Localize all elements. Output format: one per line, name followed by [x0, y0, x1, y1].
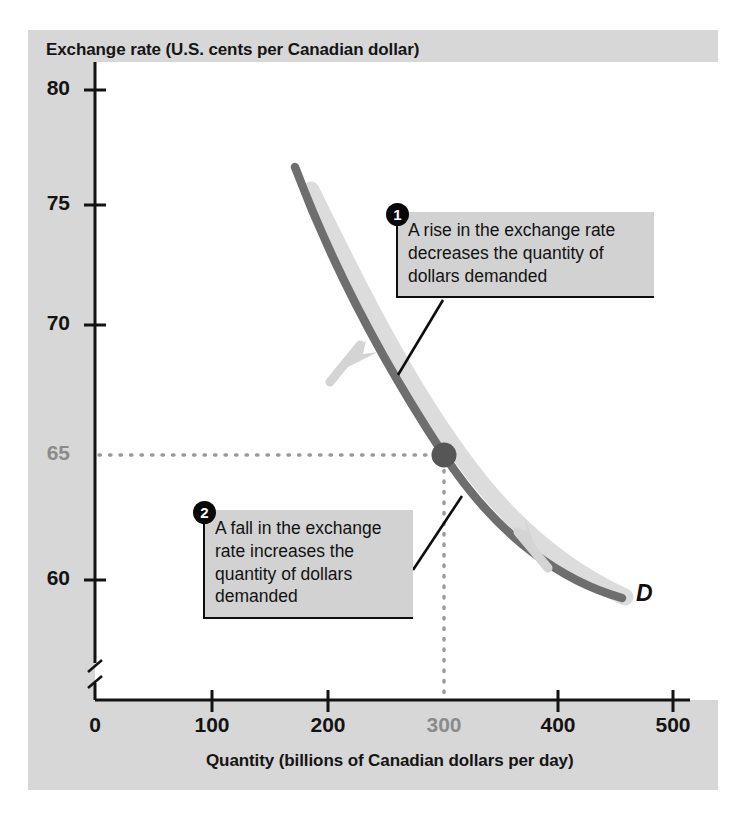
x-tick-label-300: 300 — [414, 713, 474, 737]
x-tick-label-0: 0 — [65, 713, 125, 737]
demand-curve-label: D — [636, 580, 653, 607]
annotation-badge-1: 1 — [386, 203, 409, 226]
annotation-callout-2: A fall in the exchange rate increases th… — [203, 510, 413, 619]
equilibrium-point — [432, 443, 457, 468]
x-tick-label-100: 100 — [182, 713, 242, 737]
x-tick-label-200: 200 — [298, 713, 358, 737]
annotation-callout-1: A rise in the exchange rate decreases th… — [396, 212, 654, 298]
y-tick-label-70: 70 — [28, 311, 70, 335]
x-axis-title: Quantity (billions of Canadian dollars p… — [206, 751, 573, 771]
y-tick-label-60: 60 — [28, 566, 70, 590]
y-tick-label-80: 80 — [28, 76, 70, 100]
y-tick-label-65: 65 — [28, 441, 70, 465]
callout-1-leader-line — [398, 300, 443, 375]
annotation-badge-2: 2 — [193, 501, 216, 524]
callout-2-leader-line — [413, 496, 462, 570]
y-tick-label-75: 75 — [28, 191, 70, 215]
x-tick-label-400: 400 — [528, 713, 588, 737]
arrow-up-left-icon — [330, 340, 378, 382]
y-axis-title: Exchange rate (U.S. cents per Canadian d… — [46, 40, 419, 60]
figure-container: Exchange rate (U.S. cents per Canadian d… — [0, 0, 748, 835]
chart-graphics — [0, 0, 748, 835]
x-tick-label-500: 500 — [643, 713, 703, 737]
